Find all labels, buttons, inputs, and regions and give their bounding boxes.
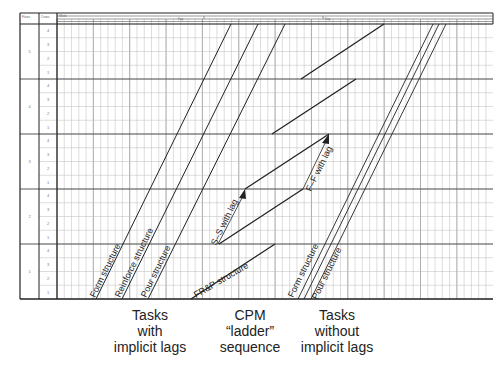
- crew-label: 1: [47, 290, 50, 295]
- crew-label: 4: [47, 83, 50, 88]
- crew-label: 3: [47, 262, 50, 267]
- arrowhead-icon: [322, 134, 329, 144]
- crew-label: 4: [47, 138, 50, 143]
- floor-label: 1: [29, 269, 32, 274]
- caption-left-line3: implicit lags: [95, 339, 205, 355]
- crew-label: 2: [47, 221, 50, 226]
- caption-left-line2: with: [95, 323, 205, 339]
- caption-right-line1: Tasks: [282, 307, 392, 323]
- crew-label: 1: [47, 235, 50, 240]
- crew-label: 2: [47, 276, 50, 281]
- crew-label: 2: [47, 111, 50, 116]
- floor-label: 3: [29, 159, 32, 164]
- crew-label: 1: [47, 70, 50, 75]
- crew-column-header: Crews: [41, 15, 50, 19]
- crew-label: 2: [47, 166, 50, 171]
- crew-label: 1: [47, 180, 50, 185]
- crew-label: 4: [47, 248, 50, 253]
- table-header: Floors Crews Week Day Day: [22, 14, 331, 21]
- crew-label: 3: [47, 207, 50, 212]
- caption-right-line2: without: [282, 323, 392, 339]
- crew-label: 1: [47, 125, 50, 130]
- crew-label: 2: [47, 56, 50, 61]
- floor-label: 2: [29, 214, 32, 219]
- period-label-1: Day: [178, 17, 184, 21]
- arrowhead-icon: [239, 189, 246, 199]
- floor-label: 4: [29, 104, 32, 109]
- floor-label: 5: [29, 49, 32, 54]
- caption-right-line3: implicit lags: [282, 339, 392, 355]
- caption-right: Tasks without implicit lags: [282, 307, 392, 355]
- crew-label: 3: [47, 42, 50, 47]
- crew-label: 4: [47, 193, 50, 198]
- label-frp-structure: FR&P structure: [192, 260, 250, 299]
- floor-column-header: Floors: [22, 15, 31, 19]
- crew-label: 3: [47, 152, 50, 157]
- caption-left: Tasks with implicit lags: [95, 307, 205, 355]
- crew-label: 3: [47, 97, 50, 102]
- caption-left-line1: Tasks: [95, 307, 205, 323]
- time-header: Week: [59, 14, 67, 18]
- period-label-2: Day: [325, 17, 331, 21]
- crew-label: 4: [47, 28, 50, 33]
- label-ff-with-lag: F–F with lag: [304, 144, 334, 192]
